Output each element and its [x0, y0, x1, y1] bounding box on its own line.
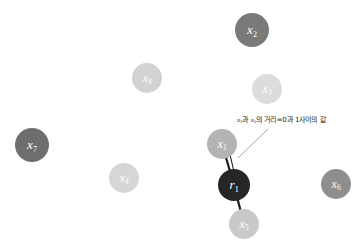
annotation-variable: x1 — [237, 116, 242, 124]
distance-annotation-label: x1과 x5의 거리=0과 1사이의 값 — [237, 117, 326, 125]
node-x2[interactable]: x2 — [235, 13, 269, 47]
annotation-leader-line — [238, 129, 268, 158]
annotation-variable: x5 — [251, 116, 256, 124]
node-r1[interactable]: r1 — [218, 169, 250, 201]
node-x1[interactable]: x1 — [207, 129, 237, 159]
node-label-x1: x1 — [217, 138, 226, 150]
node-label-x8: x8 — [142, 72, 151, 84]
node-label-x7: x7 — [27, 138, 37, 151]
node-label-x2: x2 — [247, 23, 257, 36]
node-label-x6: x6 — [331, 178, 340, 190]
node-label-r1: r1 — [229, 178, 238, 191]
node-label-x5: x5 — [239, 218, 248, 230]
node-label-x4: x4 — [119, 172, 128, 184]
node-x4[interactable]: x4 — [109, 163, 139, 193]
node-x8[interactable]: x8 — [132, 63, 162, 93]
node-label-x3: x3 — [262, 83, 271, 95]
node-x5[interactable]: x5 — [229, 209, 259, 239]
scatter-diagram-canvas: x7x8x2x3x4x1r1x5x6 x1과 x5의 거리=0과 1사이의 값 — [0, 0, 358, 245]
node-x3[interactable]: x3 — [252, 74, 282, 104]
leader-line — [238, 129, 268, 158]
node-x6[interactable]: x6 — [321, 169, 351, 199]
node-x7[interactable]: x7 — [15, 128, 49, 162]
